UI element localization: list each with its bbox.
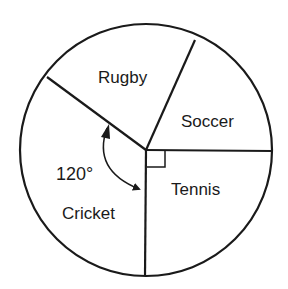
- label-angle-120: 120°: [56, 164, 93, 185]
- label-tennis: Tennis: [171, 180, 220, 200]
- label-soccer: Soccer: [181, 112, 234, 132]
- divider-soccer-tennis: [146, 150, 272, 151]
- label-cricket: Cricket: [62, 204, 115, 224]
- label-rugby: Rugby: [98, 68, 147, 88]
- divider-tennis-cricket: [145, 150, 146, 276]
- pie-chart: [0, 0, 288, 289]
